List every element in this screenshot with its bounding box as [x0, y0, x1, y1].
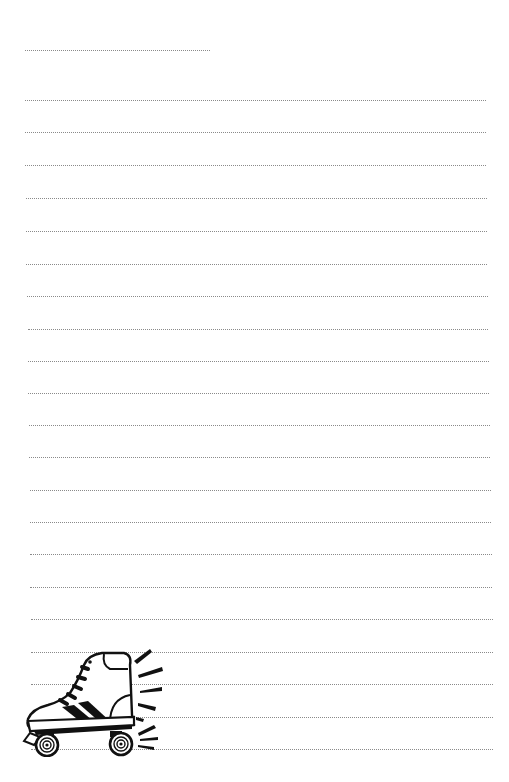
- writing-line: [31, 619, 493, 620]
- roller-skate-icon: [22, 645, 167, 757]
- writing-line: [26, 198, 487, 199]
- writing-line: [28, 361, 489, 362]
- writing-line: [28, 393, 489, 394]
- writing-line: [30, 490, 491, 491]
- writing-line: [29, 425, 490, 426]
- writing-line: [27, 296, 488, 297]
- writing-line: [25, 100, 486, 101]
- writing-line: [30, 554, 492, 555]
- writing-line: [26, 264, 487, 265]
- writing-line: [28, 329, 488, 330]
- writing-line: [25, 165, 486, 166]
- writing-line: [29, 457, 490, 458]
- writing-line: [30, 587, 492, 588]
- lined-paper-page: [0, 0, 509, 782]
- name-line: [25, 50, 210, 51]
- writing-line: [26, 231, 487, 232]
- writing-line: [30, 522, 491, 523]
- writing-line: [25, 132, 486, 133]
